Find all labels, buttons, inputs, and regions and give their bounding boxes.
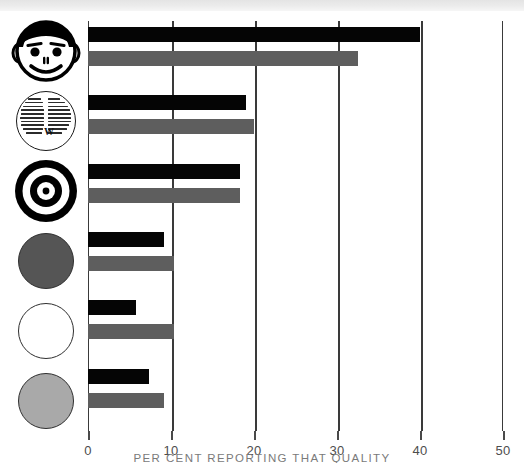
x-gridline — [172, 21, 174, 431]
top-banner-strip — [0, 0, 524, 11]
category-icon-cell — [5, 16, 87, 86]
bar — [88, 119, 254, 134]
x-axis-tick — [337, 431, 339, 440]
bullseye-target-icon — [14, 159, 78, 223]
x-axis-tick — [420, 431, 422, 440]
bar — [88, 232, 164, 247]
x-axis-tick — [503, 431, 505, 440]
x-axis-tick — [171, 431, 173, 440]
bar — [88, 300, 136, 315]
bar — [88, 393, 164, 408]
bar — [88, 324, 174, 339]
x-axis-tick — [254, 431, 256, 440]
bar — [88, 95, 246, 110]
smiley-face-icon — [11, 18, 81, 84]
category-icon-cell — [5, 366, 87, 436]
x-gridline — [421, 21, 423, 431]
x-gridline — [255, 21, 257, 431]
x-axis-tick — [88, 431, 90, 440]
white-circle-icon — [18, 303, 74, 359]
x-axis-title: PER CENT REPORTING THAT QUALITY — [0, 452, 524, 463]
chart-screenshot: W — [0, 0, 524, 463]
category-icon-column: W — [5, 16, 87, 436]
x-gridline — [338, 21, 340, 431]
category-icon-cell: W — [5, 86, 87, 156]
category-icon-cell — [5, 226, 87, 296]
dark-gray-circle-icon — [18, 233, 74, 289]
category-icon-cell — [5, 156, 87, 226]
light-gray-circle-icon — [18, 373, 74, 429]
text-circle-w-glyph: W — [44, 127, 54, 137]
bar — [88, 164, 240, 179]
bar — [88, 27, 420, 42]
bar — [88, 256, 174, 271]
bar — [88, 369, 149, 384]
bar-chart-figure: W — [0, 11, 524, 463]
top-banner-gradient — [0, 0, 524, 11]
text-circle-icon: W — [16, 91, 76, 151]
plot-area — [88, 21, 503, 431]
category-icon-cell — [5, 296, 87, 366]
bar — [88, 51, 358, 66]
bar — [88, 188, 240, 203]
